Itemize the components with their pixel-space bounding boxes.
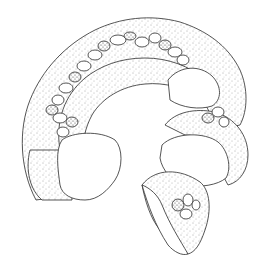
fragment [142,172,209,255]
specimen-illustration [0,0,263,268]
